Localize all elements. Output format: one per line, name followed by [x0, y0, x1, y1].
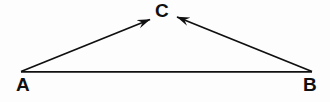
vector-b-to-c: [177, 17, 312, 72]
vector-diagram-figure: A B C: [0, 0, 330, 102]
vertex-label-c: C: [155, 1, 169, 20]
vector-a-to-c: [21, 20, 150, 72]
vertex-label-a: A: [16, 75, 30, 94]
vertex-label-b: B: [303, 75, 317, 94]
